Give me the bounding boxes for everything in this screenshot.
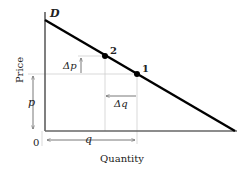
delta-q-label: Δq: [113, 98, 128, 109]
point-2-marker: [102, 53, 108, 59]
point-2-label: 2: [110, 45, 117, 56]
curve-label-d: D: [49, 7, 60, 20]
demand-curve: [45, 20, 235, 131]
demand-diagram: D 2 1 Δp Δq p q 0 Quantity Price: [0, 0, 252, 179]
x-axis-label: Quantity: [100, 153, 144, 164]
y-axis-label: Price: [14, 57, 25, 83]
point-1-label: 1: [142, 63, 149, 74]
delta-p-label: Δp: [62, 60, 77, 71]
quantity-label-q: q: [85, 133, 92, 146]
origin-label: 0: [33, 137, 39, 148]
point-1-marker: [134, 71, 140, 77]
price-label-p: p: [28, 96, 35, 109]
